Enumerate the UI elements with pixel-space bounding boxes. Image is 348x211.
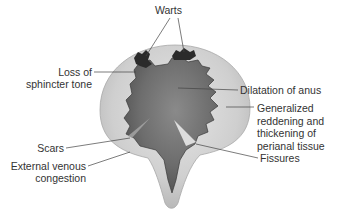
- anal-region: [124, 56, 218, 193]
- label-fissures: Fissures: [260, 152, 300, 164]
- label-warts: Warts: [155, 4, 182, 16]
- label-generalized-reddening: Generalized reddening and thickening of …: [257, 102, 325, 152]
- label-scars: Scars: [20, 142, 64, 154]
- label-dilatation-of-anus: Dilatation of anus: [240, 84, 321, 96]
- label-loss-of-sphincter-tone: Loss of sphincter tone: [18, 66, 92, 90]
- label-external-venous-congestion: External venous congestion: [4, 160, 86, 184]
